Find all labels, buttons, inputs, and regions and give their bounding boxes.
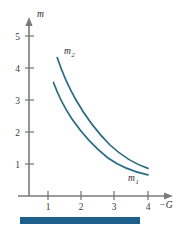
y-tick-label-3: 3 (15, 96, 20, 106)
curve-m1 (54, 83, 149, 175)
y-axis-arrow-icon (25, 17, 32, 26)
x-tick-label-2: 2 (79, 202, 84, 212)
curve-m2 (57, 58, 148, 169)
y-axis-label: m (37, 9, 44, 19)
x-tick-label-1: 1 (46, 202, 51, 212)
y-tick-label-1: 1 (15, 160, 20, 170)
curve-label-m2-subscript: 2 (72, 51, 76, 58)
y-tick-label-4: 4 (15, 64, 20, 74)
x-axis-label: −G (159, 200, 172, 210)
curve-label-m1-subscript: 1 (136, 178, 139, 185)
y-tick-label-2: 2 (15, 128, 20, 138)
figure-container: 5 4 3 2 1 1 2 3 4 m −G m 2 m 1 (0, 0, 192, 234)
curve-label-m2: m (64, 46, 71, 56)
curve-label-m1: m (128, 173, 135, 183)
y-tick-label-5: 5 (15, 32, 20, 42)
chart-plot: 5 4 3 2 1 1 2 3 4 m −G m 2 m 1 (0, 0, 192, 234)
x-axis-arrow-icon (164, 192, 173, 199)
x-tick-label-4: 4 (146, 202, 151, 212)
x-tick-label-3: 3 (112, 202, 117, 212)
bottom-decorative-bar (20, 217, 140, 224)
